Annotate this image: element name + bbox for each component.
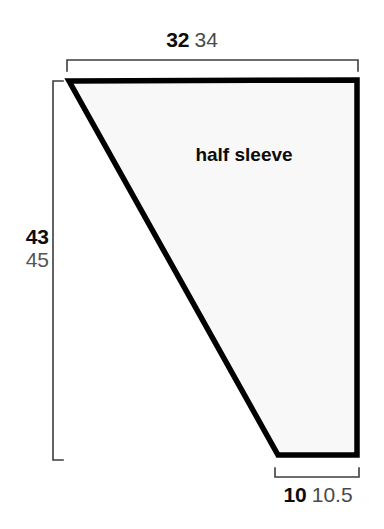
dimension-top-secondary-value: 34: [195, 28, 218, 51]
dimension-top-primary-value: 32: [166, 28, 189, 51]
dimension-bracket-bottom: [275, 468, 359, 477]
dimension-bottom-secondary-value: 10.5: [312, 483, 353, 506]
dimension-label-left: 43 45: [8, 225, 49, 271]
pattern-drawing: [0, 0, 384, 529]
dimension-left-secondary-value: 45: [8, 248, 49, 271]
dimension-bracket-left: [53, 81, 63, 460]
pattern-piece-label: half sleeve: [168, 145, 320, 164]
dimension-left-primary-value: 43: [8, 225, 49, 248]
pattern-diagram-canvas: 3234 43 45 1010.5 half sleeve: [0, 0, 384, 529]
dimension-bracket-top: [67, 60, 358, 71]
dimension-bottom-primary-value: 10: [283, 483, 306, 506]
dimension-label-bottom: 1010.5: [258, 484, 378, 505]
pattern-piece-outline: [69, 80, 357, 455]
dimension-label-top: 3234: [0, 29, 384, 50]
